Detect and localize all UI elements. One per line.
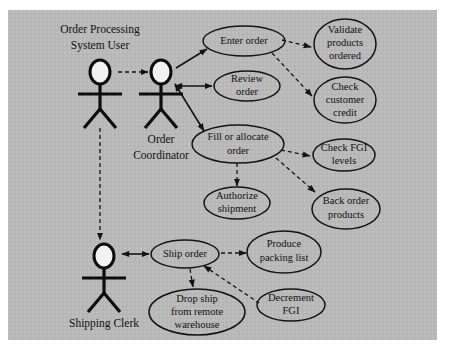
- svg-text:ordered: ordered: [329, 50, 362, 61]
- svg-text:Review: Review: [231, 73, 263, 84]
- svg-text:order: order: [227, 145, 250, 156]
- svg-text:Ship order: Ship order: [163, 248, 208, 259]
- svg-text:Shipping Clerk: Shipping Clerk: [69, 317, 139, 330]
- svg-text:Enter order: Enter order: [220, 35, 268, 46]
- actor-head-icon: [94, 244, 114, 268]
- svg-text:Drop ship: Drop ship: [176, 293, 218, 304]
- svg-text:levels: levels: [332, 155, 357, 166]
- diagram-canvas: Enter order Review order Fill or allocat…: [0, 0, 450, 355]
- svg-text:Decrement: Decrement: [268, 292, 314, 303]
- svg-text:Validate: Validate: [328, 24, 363, 35]
- svg-text:Back order: Back order: [323, 195, 370, 206]
- svg-text:order: order: [236, 86, 259, 97]
- svg-text:Order: Order: [148, 133, 175, 145]
- svg-text:Check FGI: Check FGI: [321, 142, 368, 153]
- diagram-background: [8, 10, 437, 340]
- svg-text:warehouse: warehouse: [175, 319, 220, 330]
- actor-head-icon: [151, 60, 171, 84]
- svg-text:System User: System User: [71, 39, 130, 52]
- svg-text:products: products: [328, 209, 364, 220]
- svg-text:shipment: shipment: [218, 203, 257, 214]
- svg-text:credit: credit: [333, 107, 357, 118]
- svg-text:FGI: FGI: [283, 305, 300, 316]
- svg-text:packing list: packing list: [260, 252, 309, 263]
- svg-text:Order Processing: Order Processing: [60, 23, 140, 36]
- svg-text:Authorize: Authorize: [216, 190, 258, 201]
- svg-text:products: products: [327, 37, 363, 48]
- use-case-diagram: Enter order Review order Fill or allocat…: [0, 0, 450, 355]
- svg-text:Produce: Produce: [267, 238, 302, 249]
- svg-text:Fill or allocate: Fill or allocate: [207, 131, 269, 142]
- svg-text:from remote: from remote: [171, 306, 224, 317]
- svg-text:Check: Check: [332, 81, 360, 92]
- svg-text:Coordinator: Coordinator: [133, 149, 189, 161]
- actor-head-icon: [90, 60, 110, 84]
- svg-text:customer: customer: [326, 94, 365, 105]
